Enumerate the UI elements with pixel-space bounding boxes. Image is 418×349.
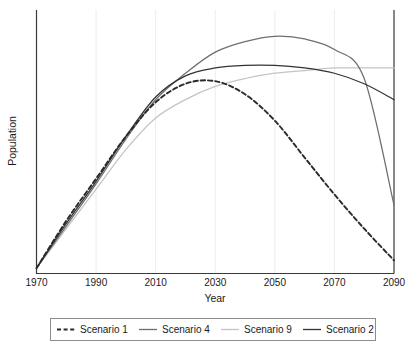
chart-canvas: 1970199020102030205020702090 Year Popula… bbox=[0, 0, 418, 349]
legend-label-scenario-2: Scenario 2 bbox=[326, 324, 374, 335]
population-scenarios-chart: 1970199020102030205020702090 Year Popula… bbox=[0, 0, 418, 349]
legend-label-scenario-9: Scenario 9 bbox=[244, 324, 292, 335]
x-tick-1970: 1970 bbox=[25, 277, 48, 288]
x-tick-2070: 2070 bbox=[323, 277, 346, 288]
x-tick-1990: 1990 bbox=[85, 277, 108, 288]
x-tick-2050: 2050 bbox=[264, 277, 287, 288]
chart-legend[interactable]: Scenario 1Scenario 4Scenario 9Scenario 2 bbox=[51, 319, 376, 341]
x-axis-tick-labels: 1970199020102030205020702090 bbox=[25, 277, 405, 288]
x-tick-2010: 2010 bbox=[145, 277, 168, 288]
x-tick-2030: 2030 bbox=[204, 277, 227, 288]
x-tick-2090: 2090 bbox=[383, 277, 406, 288]
legend-label-scenario-4: Scenario 4 bbox=[162, 324, 210, 335]
legend-label-scenario-1: Scenario 1 bbox=[80, 324, 128, 335]
y-axis-title: Population bbox=[6, 116, 18, 166]
x-axis-title: Year bbox=[204, 292, 226, 304]
